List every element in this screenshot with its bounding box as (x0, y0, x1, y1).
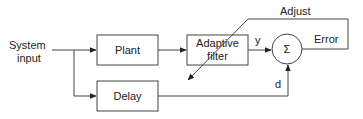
input-to-delay-arrow (74, 50, 96, 96)
sigma-symbol: Σ (284, 43, 291, 55)
error-signal-label: Error (314, 33, 339, 45)
adaptive-filter-label-line1: Adaptive (196, 37, 239, 49)
plant-label: Plant (115, 44, 140, 56)
adaptive-filter-block-diagram: System input Plant Delay Adaptive filter… (0, 0, 363, 119)
y-signal-label: y (255, 34, 261, 46)
system-input-label-line2: input (17, 52, 41, 64)
delay-label: Delay (113, 90, 142, 102)
adjust-signal-label: Adjust (280, 5, 311, 17)
system-input-label-line1: System (9, 39, 46, 51)
delay-to-sum-arrow (158, 65, 288, 96)
adaptive-filter-label-line2: filter (207, 50, 228, 62)
d-signal-label: d (275, 78, 281, 90)
